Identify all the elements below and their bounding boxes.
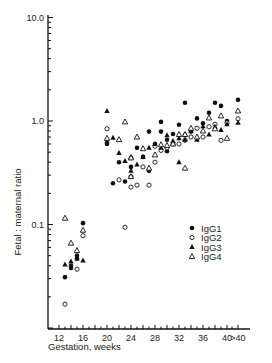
data-point bbox=[81, 221, 86, 226]
data-point bbox=[146, 165, 151, 170]
data-point bbox=[147, 183, 151, 187]
data-point bbox=[69, 263, 74, 268]
data-point bbox=[117, 178, 121, 182]
x-tick-label: >40 bbox=[230, 333, 245, 343]
data-point bbox=[105, 127, 109, 131]
data-point bbox=[206, 132, 211, 137]
x-axis-title: Gestation, weeks bbox=[48, 341, 121, 352]
data-point bbox=[147, 129, 152, 134]
y-axis-title: Fetal : maternal ratio bbox=[12, 168, 23, 255]
data-point bbox=[122, 158, 127, 163]
x-tick-label: 24 bbox=[126, 333, 136, 343]
data-point bbox=[164, 142, 169, 147]
series-igg2 bbox=[63, 117, 240, 307]
data-point bbox=[80, 227, 85, 232]
data-point bbox=[63, 302, 67, 306]
data-point bbox=[122, 119, 127, 124]
x-tick-label: 28 bbox=[150, 333, 160, 343]
data-point bbox=[189, 135, 193, 139]
data-point bbox=[235, 108, 240, 113]
data-point bbox=[105, 142, 110, 147]
data-point bbox=[117, 160, 122, 165]
legend-marker-icon bbox=[189, 244, 194, 249]
data-point bbox=[213, 100, 218, 105]
data-point bbox=[195, 116, 200, 121]
data-point bbox=[200, 128, 205, 133]
data-point bbox=[183, 100, 188, 105]
data-point bbox=[218, 113, 223, 118]
data-point bbox=[135, 146, 140, 151]
data-point bbox=[207, 125, 211, 129]
legend-marker-icon bbox=[189, 254, 194, 259]
x-tick-label: 32 bbox=[174, 333, 184, 343]
data-point bbox=[176, 159, 181, 164]
data-point bbox=[188, 125, 193, 130]
data-point bbox=[116, 137, 121, 142]
data-point bbox=[134, 161, 139, 166]
data-point bbox=[159, 120, 164, 125]
legend: IgG1IgG2IgG3IgG4 bbox=[189, 223, 221, 263]
y-tick-label: 10.0 bbox=[26, 13, 44, 23]
data-point bbox=[206, 115, 211, 120]
data-point bbox=[110, 135, 115, 140]
data-point bbox=[235, 120, 240, 125]
data-point bbox=[201, 135, 205, 139]
data-point bbox=[123, 225, 127, 229]
data-point bbox=[68, 258, 73, 263]
data-point bbox=[80, 257, 85, 262]
data-point bbox=[81, 234, 85, 238]
data-point bbox=[159, 129, 164, 134]
x-tick-label: 36 bbox=[198, 333, 208, 343]
data-point bbox=[140, 146, 145, 151]
data-point bbox=[219, 104, 224, 109]
data-point bbox=[153, 160, 157, 164]
data-point bbox=[152, 152, 157, 157]
data-point bbox=[62, 262, 67, 267]
data-points bbox=[62, 98, 240, 307]
legend-marker-icon bbox=[190, 235, 194, 239]
legend-item-igg4: IgG4 bbox=[189, 251, 221, 262]
scatter-chart: 10.01.00.1 1216202428323640>40 Fetal : m… bbox=[0, 0, 272, 363]
data-point bbox=[116, 150, 121, 155]
data-point bbox=[164, 132, 169, 137]
data-point bbox=[158, 142, 163, 147]
data-point bbox=[224, 135, 229, 140]
data-point bbox=[141, 165, 145, 169]
data-point bbox=[134, 134, 139, 139]
y-tick-label: 0.1 bbox=[31, 220, 44, 230]
y-axis: 10.01.00.1 bbox=[26, 13, 53, 330]
legend-marker-icon bbox=[190, 226, 195, 231]
legend-label: IgG4 bbox=[201, 251, 222, 262]
data-point bbox=[194, 134, 199, 139]
data-point bbox=[146, 145, 151, 150]
data-point bbox=[62, 215, 67, 220]
data-point bbox=[236, 98, 241, 103]
data-point bbox=[176, 132, 181, 137]
data-point bbox=[111, 181, 116, 186]
data-point bbox=[123, 179, 128, 184]
data-point bbox=[104, 108, 109, 113]
data-point bbox=[135, 183, 139, 187]
data-point bbox=[218, 127, 223, 132]
data-point bbox=[177, 142, 181, 146]
data-point bbox=[219, 138, 223, 142]
data-point bbox=[165, 137, 170, 142]
data-point bbox=[129, 185, 133, 189]
data-point bbox=[182, 165, 187, 170]
data-point bbox=[177, 122, 182, 127]
data-point bbox=[75, 267, 79, 271]
data-point bbox=[195, 126, 199, 130]
y-tick-label: 1.0 bbox=[31, 116, 44, 126]
data-point bbox=[171, 132, 176, 137]
data-point bbox=[63, 275, 68, 280]
data-point bbox=[104, 135, 109, 140]
data-point bbox=[68, 240, 73, 245]
data-point bbox=[74, 248, 79, 253]
data-point bbox=[128, 168, 133, 173]
